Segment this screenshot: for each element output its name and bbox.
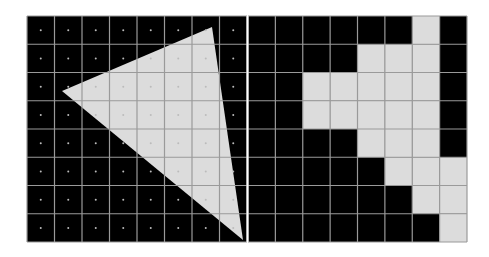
sample-point <box>122 199 124 201</box>
filled-pixel <box>440 157 467 185</box>
sample-point <box>95 57 97 59</box>
sample-point <box>95 29 97 31</box>
sample-point <box>177 114 179 116</box>
continuous-triangle-panel <box>27 16 247 242</box>
sample-point <box>150 227 152 229</box>
sample-point <box>95 142 97 144</box>
filled-pixel <box>440 214 467 242</box>
filled-pixel <box>358 44 385 72</box>
filled-pixel <box>412 44 439 72</box>
sample-point <box>67 227 69 229</box>
sample-point <box>40 142 42 144</box>
filled-pixel <box>385 101 412 129</box>
sample-point <box>122 170 124 172</box>
sample-point <box>150 29 152 31</box>
sample-point <box>232 86 234 88</box>
sample-point <box>150 114 152 116</box>
sample-point <box>205 142 207 144</box>
sample-point <box>150 142 152 144</box>
sample-point <box>122 227 124 229</box>
filled-pixel <box>412 157 439 185</box>
sample-point <box>95 199 97 201</box>
sample-point <box>40 114 42 116</box>
filled-pixel <box>303 73 330 101</box>
sample-point <box>177 170 179 172</box>
sample-point <box>150 199 152 201</box>
sample-point <box>205 199 207 201</box>
sample-point <box>177 227 179 229</box>
sample-point <box>205 114 207 116</box>
filled-pixel <box>303 101 330 129</box>
sample-point <box>122 29 124 31</box>
filled-pixel <box>412 73 439 101</box>
sample-point <box>40 199 42 201</box>
filled-pixel <box>385 129 412 157</box>
sample-point <box>40 227 42 229</box>
sample-point <box>232 142 234 144</box>
sample-point <box>95 170 97 172</box>
sample-point <box>232 227 234 229</box>
filled-pixel <box>440 186 467 214</box>
sample-point <box>95 114 97 116</box>
sample-point <box>205 86 207 88</box>
filled-pixel <box>412 186 439 214</box>
filled-pixel <box>358 101 385 129</box>
sample-point <box>67 199 69 201</box>
sample-point <box>67 57 69 59</box>
filled-pixel <box>385 73 412 101</box>
rasterization-diagram <box>0 0 489 257</box>
sample-point <box>40 86 42 88</box>
sample-point <box>177 142 179 144</box>
filled-pixel <box>412 16 439 44</box>
filled-pixel <box>385 44 412 72</box>
sample-point <box>150 57 152 59</box>
filled-pixel <box>412 101 439 129</box>
sample-point <box>122 57 124 59</box>
sample-point <box>122 114 124 116</box>
sample-point <box>67 29 69 31</box>
sample-point <box>150 86 152 88</box>
filled-pixel <box>385 157 412 185</box>
sample-point <box>205 170 207 172</box>
filled-pixel <box>358 129 385 157</box>
sample-point <box>95 227 97 229</box>
sample-point <box>232 199 234 201</box>
sample-point <box>177 29 179 31</box>
sample-point <box>205 227 207 229</box>
sample-point <box>177 86 179 88</box>
filled-pixel <box>358 73 385 101</box>
sample-point <box>177 57 179 59</box>
sample-point <box>177 199 179 201</box>
sample-point <box>122 86 124 88</box>
rasterized-pixels-panel <box>248 16 468 242</box>
sample-point <box>40 170 42 172</box>
sample-point <box>67 142 69 144</box>
sample-point <box>122 142 124 144</box>
sample-point <box>95 86 97 88</box>
sample-point <box>67 170 69 172</box>
sample-point <box>205 29 207 31</box>
sample-point <box>232 170 234 172</box>
filled-pixel <box>412 129 439 157</box>
filled-pixel <box>330 101 357 129</box>
sample-point <box>40 57 42 59</box>
sample-point <box>232 29 234 31</box>
sample-point <box>205 57 207 59</box>
sample-point <box>67 86 69 88</box>
sample-point <box>232 114 234 116</box>
sample-point <box>67 114 69 116</box>
sample-point <box>40 29 42 31</box>
sample-point <box>232 57 234 59</box>
filled-pixel <box>330 73 357 101</box>
sample-point <box>150 170 152 172</box>
